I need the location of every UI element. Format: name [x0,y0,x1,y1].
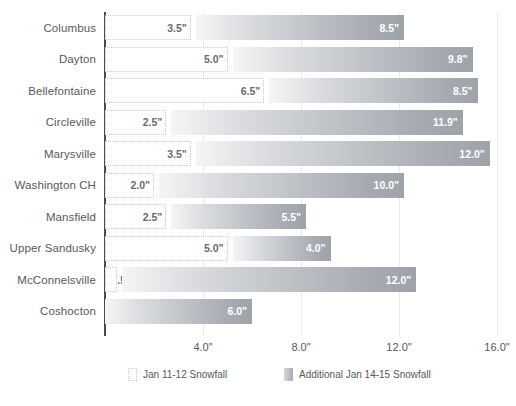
x-tick-label: 4.0" [193,341,212,353]
bar-segment-jan-11-12: 3.5" [105,15,191,40]
snowfall-stacked-bar-chart: Columbus3.5"8.5"Dayton5.0"9.8"Bellefonta… [0,0,516,406]
category-label-washington-ch: Washington CH [0,179,96,191]
legend-swatch-dotted-icon [128,368,137,381]
legend-item-jan-14-15: Additional Jan 14-15 Snowfall [284,368,431,381]
bar-value-jan-14-15: 6.0" [227,305,247,317]
bar-segment-jan-14-15: 4.0" [233,236,331,261]
category-label-bellefontaine: Bellefontaine [0,85,96,97]
chart-row: Washington CH2.0"10.0" [0,170,516,202]
bar-segment-jan-11-12: 6.5" [105,78,264,103]
bar-segment-jan-11-12: 3.5" [105,141,191,166]
chart-row: Upper Sandusky5.0"4.0" [0,233,516,265]
bar-value-jan-11-12: 3.5" [167,148,187,160]
bar-value-jan-14-15: 5.5" [281,211,301,223]
bar-value-jan-14-15: 12.0" [386,274,411,286]
chart-row: Mansfield2.5"5.5" [0,201,516,233]
legend-item-jan-11-12: Jan 11-12 Snowfall [128,368,227,381]
bar-value-jan-14-15: 11.9" [433,116,458,128]
x-tick-label: 12.0" [386,341,411,353]
bar-segment-jan-11-12: 5.0" [105,236,228,261]
bar-segment-jan-14-15: 8.5" [269,78,477,103]
bar-segment-jan-11-12: 2.5" [105,204,166,229]
bar-value-jan-14-15: 12.0" [459,148,484,160]
bar-value-jan-11-12: 6.5" [241,85,261,97]
x-tick-label: 16.0" [484,341,509,353]
bar-segment-jan-14-15: 8.5" [196,15,404,40]
legend-swatch-gradient-icon [284,368,293,381]
bar-value-jan-11-12: 5.0" [204,242,224,254]
category-label-dayton: Dayton [0,53,96,65]
bar-value-jan-11-12: 2.0" [130,179,150,191]
bar-segment-jan-11-12: 2.5" [105,110,166,135]
bar-segment-jan-14-15: 12.0" [196,141,490,166]
bar-segment-jan-14-15: 6.0" [105,299,252,324]
bar-value-jan-14-15: 10.0" [374,179,399,191]
bar-segment-jan-14-15: 9.8" [233,47,473,72]
bar-segment-jan-14-15: 11.9" [171,110,463,135]
category-label-mansfield: Mansfield [0,211,96,223]
category-label-columbus: Columbus [0,22,96,34]
chart-row: Bellefontaine6.5"8.5" [0,75,516,107]
chart-legend: Jan 11-12 Snowfall Additional Jan 14-15 … [0,368,516,388]
chart-row: Dayton5.0"9.8" [0,44,516,76]
chart-row: Circleville2.5"11.9" [0,107,516,139]
chart-row: Columbus3.5"8.5" [0,12,516,44]
bar-value-jan-11-12: 2.5" [143,116,163,128]
chart-row: Marysville3.5"12.0" [0,138,516,170]
chart-row: Coshocton6.0" [0,296,516,328]
bar-segment-jan-11-12: 2.0" [105,173,154,198]
bar-value-jan-14-15: 4.0" [306,242,326,254]
bar-value-jan-11-12: 2.5" [143,211,163,223]
category-label-coshocton: Coshocton [0,305,96,317]
category-label-mcconnelsville: McConnelsville [0,274,96,286]
chart-row: McConnelsville.5"12.0" [0,264,516,296]
bar-segment-jan-14-15: 12.0" [122,267,416,292]
bar-segment-jan-11-12: .5" [105,267,117,292]
bar-segment-jan-11-12: 5.0" [105,47,228,72]
x-tick-label: 8.0" [291,341,310,353]
bar-value-jan-11-12: 3.5" [167,22,187,34]
category-label-marysville: Marysville [0,148,96,160]
category-label-circleville: Circleville [0,116,96,128]
legend-label-jan-14-15: Additional Jan 14-15 Snowfall [299,369,431,380]
bar-segment-jan-14-15: 10.0" [159,173,404,198]
bar-value-jan-14-15: 9.8" [448,53,468,65]
bar-value-jan-11-12: 5.0" [204,53,224,65]
bar-value-jan-14-15: 8.5" [379,22,399,34]
bar-value-jan-14-15: 8.5" [453,85,473,97]
bar-segment-jan-14-15: 5.5" [171,204,306,229]
category-label-upper-sandusky: Upper Sandusky [0,242,96,254]
x-axis-ticks: 4.0"8.0"12.0"16.0" [0,341,516,359]
legend-label-jan-11-12: Jan 11-12 Snowfall [143,369,227,380]
